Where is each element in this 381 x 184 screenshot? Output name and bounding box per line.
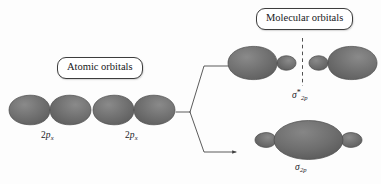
label-orbital-subscript: x	[51, 134, 54, 141]
label-orbital-subscript: 2p	[300, 166, 307, 173]
label-orbital-letter: p	[46, 130, 51, 140]
label-atomic-orbital-left: 2px	[40, 131, 54, 141]
label-atomic-orbital-right: 2px	[124, 131, 138, 141]
orbital-lobe-large	[328, 46, 377, 79]
connector-branch-down	[190, 112, 236, 152]
orbital-central-ellipse	[274, 121, 343, 160]
molecular-orbital-bonding	[255, 121, 362, 160]
label-orbital-subscript: x	[135, 134, 138, 141]
atomic-orbital-left	[9, 95, 91, 125]
orbital-lobe	[134, 95, 175, 125]
orbital-diagram: Atomic orbitals Molecular orbitals 2px 2…	[0, 0, 381, 184]
orbital-lobe	[9, 95, 50, 125]
orbital-lobe	[93, 95, 134, 125]
molecular-orbital-antibonding	[228, 38, 377, 86]
orbital-lobe-small	[255, 133, 276, 148]
atomic-orbital-right	[93, 95, 175, 125]
label-sigma-symbol: σ	[295, 162, 300, 172]
label-molecular-orbital-antibonding: σ*2p	[291, 91, 308, 101]
orbital-lobe-small	[309, 56, 328, 70]
callout-molecular-orbitals: Molecular orbitals	[256, 8, 353, 30]
label-molecular-orbital-bonding: σ2p	[294, 163, 307, 173]
label-orbital-subscript: 2p	[301, 94, 308, 101]
connector-branch-up	[190, 66, 236, 112]
orbital-lobe-small	[341, 133, 362, 148]
label-orbital-letter: p	[130, 130, 135, 140]
connector-branch	[176, 66, 236, 152]
orbital-lobe	[50, 95, 91, 125]
orbital-lobe-small	[277, 56, 296, 70]
orbital-lobe-large	[228, 46, 277, 79]
label-sigma-symbol: σ	[292, 90, 297, 100]
callout-atomic-orbitals: Atomic orbitals	[57, 57, 143, 79]
